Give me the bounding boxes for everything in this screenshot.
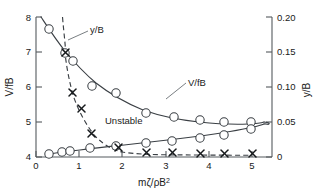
left-tick-label-4: 4	[26, 151, 31, 162]
marker-x	[221, 150, 228, 157]
marker-circle	[196, 116, 204, 124]
right-axis-ticks	[266, 17, 272, 157]
x-axis-tick-labels: 0 1 2 3 4 5	[33, 160, 254, 171]
y-axis-left-label: V/fB	[4, 77, 15, 96]
marker-circle	[45, 25, 53, 33]
annotation-vfb: V/fB	[188, 77, 206, 88]
left-tick-label-8: 8	[26, 12, 31, 23]
x-axis-label: mζ/ρB2	[138, 177, 170, 190]
right-tick-label-0.15: 0.15	[277, 46, 296, 57]
left-axis-tick-labels: 4 5 6 7 8	[26, 12, 31, 162]
x-tick-label-2: 2	[119, 160, 124, 171]
marker-circle	[196, 134, 204, 142]
x-tick-label-3: 3	[163, 160, 168, 171]
x-tick-label-0: 0	[33, 160, 38, 171]
vfb-upper-curve	[41, 17, 264, 124]
vfb-turning-point	[264, 122, 269, 124]
left-tick-label-7: 7	[26, 46, 31, 57]
vfb-lower-curve	[49, 124, 264, 154]
chart-svg: 4 5 6 7 8 0 0.05 0.10 0.15 0.20	[0, 0, 323, 192]
marker-x	[143, 149, 150, 156]
x-tick-label-5: 5	[249, 160, 254, 171]
marker-circle	[58, 148, 66, 156]
annotation-unstable: Unstable	[105, 115, 143, 126]
marker-circle	[45, 150, 53, 158]
marker-circle	[142, 109, 150, 117]
x-tick-label-4: 4	[206, 160, 211, 171]
right-axis-tick-labels: 0 0.05 0.10 0.15 0.20	[277, 12, 296, 162]
marker-circle	[220, 118, 228, 126]
right-tick-label-0.10: 0.10	[277, 81, 296, 92]
right-tick-label-0: 0	[277, 151, 282, 162]
marker-circle	[220, 131, 228, 139]
annotation-yb: y/B	[90, 24, 104, 35]
marker-x	[78, 105, 85, 112]
yb-leader-line	[68, 31, 88, 40]
marker-circle	[86, 144, 94, 152]
left-tick-label-6: 6	[26, 81, 31, 92]
marker-circle	[170, 113, 178, 121]
marker-circle	[69, 57, 77, 65]
left-axis-ticks	[36, 17, 42, 157]
marker-x	[197, 150, 204, 157]
left-tick-label-5: 5	[26, 116, 31, 127]
right-tick-label-0.05: 0.05	[277, 116, 296, 127]
marker-circle	[247, 125, 255, 133]
marker-circle	[66, 147, 74, 155]
marker-circle	[112, 89, 120, 97]
right-tick-label-0.20: 0.20	[277, 12, 296, 23]
chart-figure: 4 5 6 7 8 0 0.05 0.10 0.15 0.20	[0, 0, 323, 192]
x-tick-label-1: 1	[76, 160, 81, 171]
marker-circle	[142, 139, 150, 147]
marker-circle	[168, 137, 176, 145]
vfb-leader-line	[166, 83, 186, 99]
vfb-upper-markers	[45, 25, 255, 126]
marker-circle	[88, 82, 96, 90]
y-axis-right-label: y/B	[301, 82, 312, 97]
